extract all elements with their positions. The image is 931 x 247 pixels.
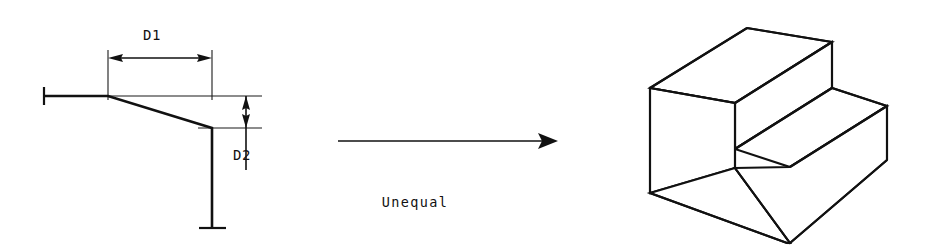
dimension-d2-label: D2: [233, 147, 251, 163]
dimension-d2-arrowhead-up: [242, 96, 250, 110]
dimension-d2-arrowhead-down: [242, 114, 250, 128]
extension-lines: [108, 50, 262, 128]
dimension-d1-arrowhead-right: [197, 54, 212, 62]
dimension-d2: D2: [233, 96, 251, 170]
technical-drawing-figure: D1 D2 Unequal: [0, 0, 931, 247]
dimension-d1: D1: [108, 27, 212, 62]
dimension-d1-label: D1: [143, 27, 161, 43]
endpoint-ticks: [44, 87, 226, 228]
profile-sketch: D1 D2: [44, 27, 262, 228]
isometric-step-block: [650, 28, 887, 243]
transform-arrow: Unequal: [338, 133, 558, 210]
dimension-d1-arrowhead-left: [108, 54, 123, 62]
profile-polyline: [44, 96, 212, 228]
figure-canvas: D1 D2 Unequal: [0, 0, 931, 247]
block-faces: [650, 28, 887, 243]
transform-caption: Unequal: [382, 194, 449, 210]
